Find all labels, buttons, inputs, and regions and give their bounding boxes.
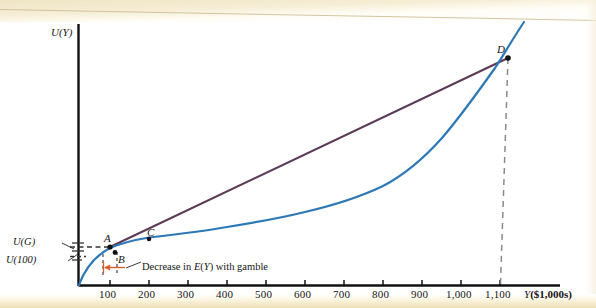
y-axis-title: U(Y) <box>51 26 72 38</box>
x-axis-title: Y($1,000s) <box>524 288 572 300</box>
gamble-bracket-markers <box>103 252 117 276</box>
x-tick-label-800: 800 <box>372 288 389 300</box>
ug-leader-line <box>62 243 74 249</box>
point-label-C: C <box>147 226 154 238</box>
x-tick-label-500: 500 <box>255 288 272 300</box>
x-axis-title-units: ($1,000s) <box>530 288 572 300</box>
x-tick-label-400: 400 <box>216 288 233 300</box>
utility-function-plot <box>0 0 596 308</box>
point-label-A: A <box>104 232 111 244</box>
data-point-A <box>107 244 112 249</box>
figure-page: U(Y) U(G) U(100) A B C D Decrease in E(Y… <box>0 0 596 308</box>
data-point-B <box>113 250 118 255</box>
x-tick-label-200: 200 <box>138 288 155 300</box>
x-tick-label-300: 300 <box>177 288 194 300</box>
x-tick-label-1100: 1,100 <box>485 288 511 300</box>
annotation-text-before: Decrease in <box>142 261 194 272</box>
x-tick-label-600: 600 <box>294 288 311 300</box>
annotation-text-after: ) with gamble <box>210 261 268 272</box>
data-point-D <box>505 55 511 61</box>
x-tick-label-1000: 1,000 <box>446 288 472 300</box>
point-label-B: B <box>118 253 125 265</box>
annotation-leader-line <box>126 262 141 268</box>
y-value-label-u100: U(100) <box>6 254 36 265</box>
x-tick-label-700: 700 <box>333 288 350 300</box>
point-label-D: D <box>497 43 505 55</box>
d-drop-dashed-line <box>501 58 509 284</box>
decrease-annotation-label: Decrease in E(Y) with gamble <box>142 261 268 272</box>
utility-curve-series <box>79 22 524 285</box>
x-tick-label-900: 900 <box>411 288 428 300</box>
chord-line-series <box>110 58 508 247</box>
y-value-label-ug: U(G) <box>13 236 35 247</box>
x-tick-label-100: 100 <box>99 288 116 300</box>
